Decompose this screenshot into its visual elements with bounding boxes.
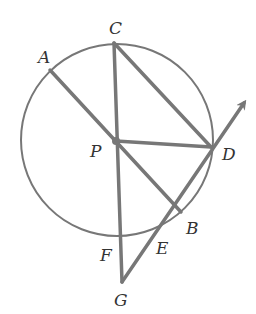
label-G: G: [114, 290, 128, 310]
label-P: P: [89, 141, 102, 161]
segment-CG: [114, 43, 122, 282]
label-F: F: [99, 245, 113, 265]
label-E: E: [155, 238, 169, 258]
ray-GD: [122, 103, 244, 282]
segment-PD: [116, 141, 211, 147]
label-B: B: [185, 218, 199, 238]
geometry-diagram: A C P D B E F G: [0, 0, 256, 314]
label-C: C: [109, 18, 122, 38]
center-point-P: [112, 137, 120, 145]
label-A: A: [36, 47, 50, 67]
label-D: D: [221, 144, 236, 164]
segment-CD: [114, 43, 211, 147]
